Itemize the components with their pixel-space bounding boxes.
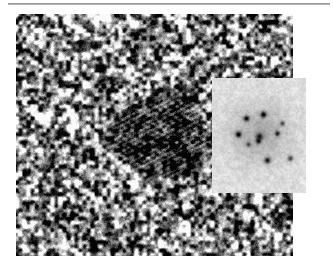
figure-root	[0, 0, 333, 270]
fft-diffraction-inset	[212, 78, 306, 193]
horizontal-rule	[8, 3, 330, 5]
fft-inset-canvas	[212, 78, 306, 193]
